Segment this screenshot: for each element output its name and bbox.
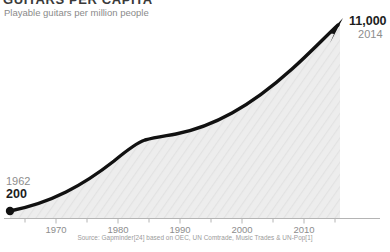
- x-axis-ticks: [25, 219, 335, 224]
- end-annotation-year: 2014: [349, 29, 387, 41]
- end-annotation-value: 11,000: [349, 15, 387, 29]
- area-fill: [10, 23, 340, 218]
- end-annotation: 11,000 2014: [349, 15, 387, 40]
- source-note: Source: Gapminder[24] based on OEC, UN C…: [77, 234, 312, 241]
- start-point-marker: [6, 207, 14, 215]
- area-chart-plot: [0, 0, 390, 252]
- start-annotation-value: 200: [6, 188, 30, 202]
- start-annotation: 1962 200: [6, 176, 30, 201]
- x-tick-label-1970: 1970: [45, 224, 66, 235]
- chart-container: GUITARS PER CAPITA Playable guitars per …: [0, 0, 390, 252]
